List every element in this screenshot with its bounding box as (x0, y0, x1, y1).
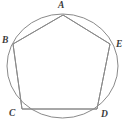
circumscribed-circle (7, 14, 118, 118)
vertex-label-d: D (101, 110, 108, 120)
vertex-label-e: E (116, 40, 122, 50)
pentagon-shape (13, 15, 110, 109)
pentagon-in-circle-drawing (0, 0, 129, 126)
vertex-label-b: B (2, 36, 8, 46)
vertex-label-c: C (9, 109, 15, 119)
geometry-figure: A B C D E (0, 0, 129, 126)
vertex-label-a: A (58, 1, 64, 11)
edge-D-E (97, 44, 110, 109)
edge-B-C (13, 44, 22, 109)
